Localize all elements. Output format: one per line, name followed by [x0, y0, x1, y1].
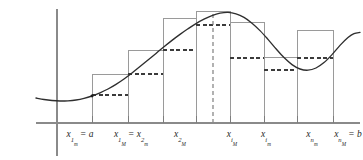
- rect-7: [297, 30, 333, 123]
- touch-point-dots-group: [91, 95, 94, 98]
- rect-1: [92, 74, 128, 123]
- rect-5: [230, 22, 264, 123]
- rect-2: [128, 50, 163, 123]
- function-curve: [36, 12, 360, 101]
- curve-touch-dot: [91, 95, 94, 98]
- rect-3: [163, 18, 196, 123]
- darboux-sum-figure: x1m = a x1M = x2m x2M xiM xim xnm xnM = …: [0, 0, 363, 160]
- figure-canvas: [0, 0, 363, 160]
- rect-6: [264, 57, 297, 123]
